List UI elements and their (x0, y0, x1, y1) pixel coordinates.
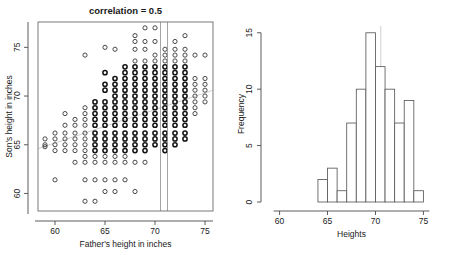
scatter-point (153, 106, 157, 110)
scatter-point (173, 65, 177, 69)
scatter-point (143, 111, 147, 115)
scatter-point (193, 106, 197, 110)
scatter-point (133, 148, 137, 152)
scatter-point (113, 148, 117, 152)
scatter-point (113, 76, 117, 80)
scatter-point (153, 53, 157, 57)
scatter-point (113, 189, 117, 193)
scatter-point (133, 137, 137, 141)
scatter-point (143, 59, 147, 63)
scatter-point (113, 106, 117, 110)
scatter-point (163, 131, 167, 135)
scatter-point (153, 117, 157, 121)
histogram-bar (347, 123, 357, 202)
scatter-point (143, 82, 147, 86)
scatter-point (133, 39, 137, 43)
scatter-point (113, 178, 117, 182)
scatter-point (133, 65, 137, 69)
y-axis-title: Son's height in inches (4, 75, 14, 157)
scatter-title: correlation = 0.5 (89, 5, 163, 16)
scatter-point (113, 100, 117, 104)
scatter-point (93, 131, 97, 135)
scatter-point (183, 71, 187, 75)
scatter-point (193, 82, 197, 86)
histogram-bars-group (318, 33, 423, 202)
scatter-point (203, 100, 207, 104)
y-tick-label: 5 (244, 143, 254, 148)
scatter-point (173, 100, 177, 104)
scatter-point (183, 59, 187, 63)
scatter-point (123, 88, 127, 92)
scatter-point (173, 137, 177, 141)
scatter-point (163, 82, 167, 86)
scatter-point (123, 148, 127, 152)
scatter-plot-panel: correlation = 0.560657075Father's height… (0, 0, 228, 255)
scatter-point (43, 137, 47, 141)
scatter-point (163, 71, 167, 75)
scatter-point (93, 100, 97, 104)
scatter-point (173, 82, 177, 86)
scatter-point (153, 111, 157, 115)
scatter-point (103, 189, 107, 193)
scatter-point (103, 88, 107, 92)
scatter-point (183, 53, 187, 57)
scatter-point (133, 100, 137, 104)
scatter-point (83, 160, 87, 164)
scatter-point (143, 26, 147, 30)
x-tick-label: 65 (100, 226, 110, 236)
scatter-point (173, 59, 177, 63)
scatter-point (93, 106, 97, 110)
scatter-point (203, 94, 207, 98)
scatter-point (163, 117, 167, 121)
scatter-point (153, 137, 157, 141)
scatter-point (163, 65, 167, 69)
scatter-point (163, 111, 167, 115)
scatter-point (183, 123, 187, 127)
scatter-point (133, 88, 137, 92)
histogram-bar (337, 191, 347, 202)
scatter-point (153, 59, 157, 63)
scatter-point (53, 131, 57, 135)
scatter-point (123, 143, 127, 147)
scatter-point (153, 39, 157, 43)
scatter-point (133, 117, 137, 121)
scatter-point (173, 88, 177, 92)
y-tick-label: 0 (244, 199, 254, 204)
histogram-bar (395, 123, 405, 202)
scatter-point (143, 117, 147, 121)
scatter-point (73, 131, 77, 135)
scatter-point (73, 160, 77, 164)
scatter-point (103, 123, 107, 127)
scatter-plot-svg: correlation = 0.560657075Father's height… (0, 0, 228, 255)
scatter-point (153, 82, 157, 86)
scatter-point (183, 88, 187, 92)
scatter-point (163, 100, 167, 104)
scatter-point (93, 111, 97, 115)
scatter-point (73, 123, 77, 127)
scatter-point (123, 131, 127, 135)
scatter-point (113, 160, 117, 164)
scatter-points-group (43, 26, 207, 204)
scatter-point (133, 160, 137, 164)
scatter-point (103, 111, 107, 115)
scatter-point (93, 154, 97, 158)
x-tick-label: 60 (50, 226, 60, 236)
scatter-point (93, 199, 97, 203)
scatter-point (153, 143, 157, 147)
scatter-point (173, 111, 177, 115)
y-tick-label: 75 (12, 42, 22, 52)
scatter-point (93, 143, 97, 147)
scatter-point (113, 143, 117, 147)
x-axis-title: Father's height in inches (80, 239, 172, 249)
scatter-point (183, 82, 187, 86)
scatter-point (183, 76, 187, 80)
scatter-point (153, 88, 157, 92)
scatter-point (183, 47, 187, 51)
scatter-point (113, 111, 117, 115)
scatter-point (193, 88, 197, 92)
scatter-point (73, 117, 77, 121)
scatter-point (83, 199, 87, 203)
scatter-point (163, 148, 167, 152)
scatter-point (163, 106, 167, 110)
scatter-point (113, 131, 117, 135)
